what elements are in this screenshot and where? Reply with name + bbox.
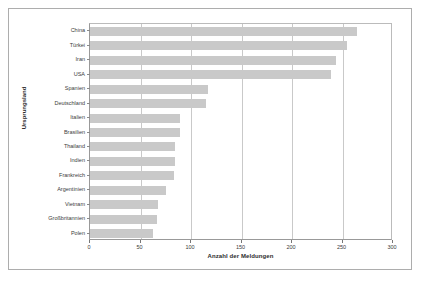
bar [90, 215, 157, 224]
bar [90, 70, 331, 79]
bar [90, 229, 153, 238]
y-tick-label: Vietnam [65, 201, 85, 207]
x-tick-mark [342, 240, 343, 243]
y-tick-mark [87, 117, 90, 118]
figure-frame: Ursprungsland ChinaTürkeiIranUSASpanienD… [8, 8, 412, 270]
x-tick-label: 300 [387, 244, 396, 250]
x-axis-label: Anzahl der Meldungen [89, 253, 392, 259]
y-tick-mark [87, 189, 90, 190]
bar [90, 27, 357, 36]
bar-series [90, 24, 391, 239]
y-tick-mark [87, 103, 90, 104]
y-tick-label: Deutschland [54, 100, 85, 106]
y-tick-label: Türkei [70, 42, 85, 48]
x-tick-mark [291, 240, 292, 243]
bar [90, 41, 347, 50]
y-tick-label: Polen [71, 230, 85, 236]
y-tick-label: Großbritannien [48, 215, 85, 221]
y-tick-label: Indien [70, 157, 85, 163]
y-tick-mark [87, 175, 90, 176]
bar [90, 114, 180, 123]
y-tick-mark [87, 45, 90, 46]
bar [90, 56, 336, 65]
x-tick-mark [190, 240, 191, 243]
x-tick-label: 150 [236, 244, 245, 250]
y-axis-label: Ursprungsland [21, 63, 27, 153]
y-tick-mark [87, 132, 90, 133]
y-tick-label: USA [74, 71, 85, 77]
x-tick-mark [392, 240, 393, 243]
y-tick-mark [87, 88, 90, 89]
y-tick-label: China [71, 27, 85, 33]
y-tick-label: Frankreich [59, 172, 85, 178]
bar [90, 200, 158, 209]
x-tick-mark [89, 240, 90, 243]
x-tick-mark [140, 240, 141, 243]
x-tick-label: 50 [136, 244, 142, 250]
x-tick-label: 0 [87, 244, 90, 250]
y-tick-mark [87, 146, 90, 147]
x-tick-mark [241, 240, 242, 243]
x-tick-label: 200 [286, 244, 295, 250]
bar [90, 142, 175, 151]
y-tick-mark [87, 30, 90, 31]
y-tick-mark [87, 59, 90, 60]
bar [90, 128, 180, 137]
y-tick-mark [87, 160, 90, 161]
y-tick-mark [87, 74, 90, 75]
bar [90, 99, 206, 108]
y-tick-mark [87, 233, 90, 234]
x-tick-label: 100 [185, 244, 194, 250]
y-tick-label: Italien [70, 114, 85, 120]
x-tick-label: 250 [337, 244, 346, 250]
bar [90, 157, 175, 166]
plot-area [89, 23, 392, 240]
y-tick-label: Thailand [64, 143, 85, 149]
y-tick-mark [87, 204, 90, 205]
y-tick-label: Brasilien [64, 129, 85, 135]
y-tick-label: Argentinien [57, 186, 85, 192]
y-axis-tick-labels: ChinaTürkeiIranUSASpanienDeutschlandItal… [29, 23, 87, 240]
bar [90, 171, 174, 180]
bar [90, 186, 166, 195]
y-tick-label: Spanien [65, 85, 85, 91]
bar [90, 85, 208, 94]
y-tick-mark [87, 218, 90, 219]
y-tick-label: Iran [76, 56, 85, 62]
